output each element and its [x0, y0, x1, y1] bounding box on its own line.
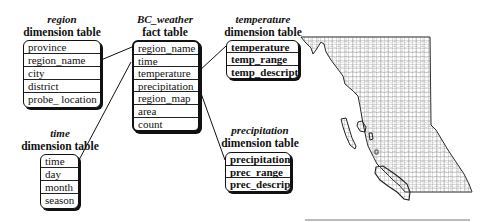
attr-month[interactable]: month	[41, 181, 78, 194]
bc-weather-fact-table[interactable]: region_name time temperature precipitati…	[132, 40, 200, 132]
attr-city[interactable]: city	[24, 67, 100, 80]
region-table-name: region	[20, 13, 104, 26]
attr-temp-descript[interactable]: temp_descript	[227, 66, 298, 78]
attr-count[interactable]: count	[134, 118, 198, 131]
attr-area[interactable]: area	[134, 105, 198, 118]
attr-region-name[interactable]: region_name	[134, 42, 198, 55]
bc-map	[301, 37, 472, 200]
link-temperature	[198, 46, 226, 72]
attr-district[interactable]: district	[24, 80, 100, 93]
attr-temp-range[interactable]: temp_range	[227, 53, 298, 65]
time-table-type: dimension table	[20, 140, 100, 153]
attr-region-name[interactable]: region_name	[24, 54, 100, 67]
time-dimension-table[interactable]: time day month season	[40, 154, 79, 209]
precipitation-table-name: precipitation	[220, 124, 300, 137]
region-table-type: dimension table	[20, 26, 104, 39]
attr-time[interactable]: time	[41, 155, 78, 168]
attr-day[interactable]: day	[41, 168, 78, 181]
attr-probe-location[interactable]: probe_ location	[24, 93, 100, 107]
precipitation-table-type: dimension table	[220, 137, 300, 150]
attr-temperature[interactable]: temperature	[134, 67, 198, 80]
attr-season[interactable]: season	[41, 194, 78, 207]
fact-caption: BC_weather fact table	[125, 13, 205, 39]
attr-precipitation[interactable]: precipitation	[226, 153, 290, 166]
attr-region-map[interactable]: region_map	[134, 92, 198, 105]
time-caption: time dimension table	[20, 127, 100, 153]
attr-temperature[interactable]: temperature	[227, 41, 298, 53]
attr-prec-range[interactable]: prec_range	[226, 166, 290, 179]
attr-time[interactable]: time	[134, 55, 198, 68]
fact-table-name: BC_weather	[125, 13, 205, 26]
temperature-dimension-table[interactable]: temperature temp_range temp_descript	[226, 40, 299, 79]
precipitation-caption: precipitation dimension table	[220, 124, 300, 150]
attr-province[interactable]: province	[24, 41, 100, 54]
fact-table-type: fact table	[125, 26, 205, 39]
region-dimension-table[interactable]: province region_name city district probe…	[23, 40, 101, 108]
temperature-caption: temperature dimension table	[222, 13, 304, 39]
link-region	[101, 47, 132, 60]
precipitation-dimension-table[interactable]: precipitation prec_range prec_descript	[225, 152, 291, 192]
temperature-table-name: temperature	[222, 13, 304, 26]
attr-prec-descript[interactable]: prec_descript	[226, 178, 290, 191]
temperature-table-type: dimension table	[222, 26, 304, 39]
attr-precipitation[interactable]: precipitation	[134, 80, 198, 93]
region-caption: region dimension table	[20, 13, 104, 39]
time-table-name: time	[20, 127, 100, 140]
